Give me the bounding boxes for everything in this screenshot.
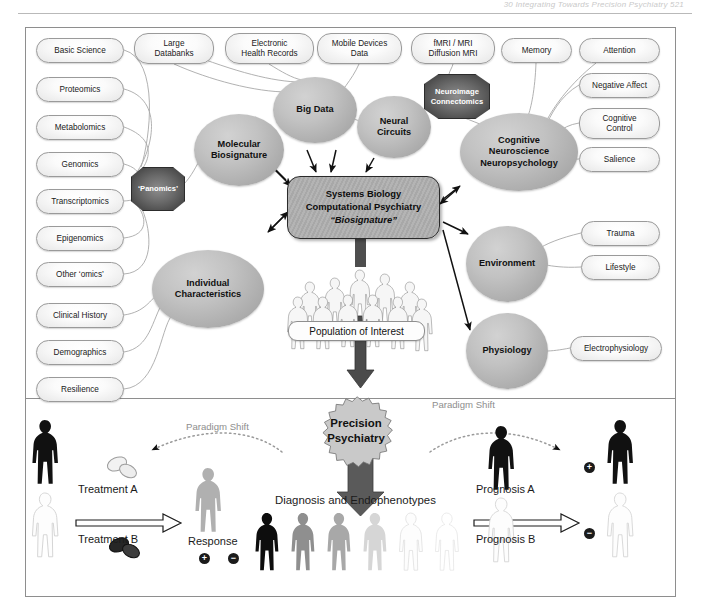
core-line-1: Systems Biology — [326, 188, 402, 200]
hub-node-big-data[interactable]: Big Data — [273, 77, 357, 143]
treatment-a-label: Treatment A — [78, 483, 138, 495]
leaf-node-mobile-devices[interactable]: Mobile DevicesData — [317, 33, 402, 64]
node-text-line: Resilience — [61, 385, 99, 395]
node-text-line: Circuits — [377, 127, 411, 138]
node-label: Mobile DevicesData — [332, 39, 388, 58]
patient-silhouette-ghost-left — [32, 493, 58, 557]
dark-node-neuroimage[interactable]: NeuroimageConnectomics — [424, 74, 490, 119]
node-text-line: Metabolomics — [55, 123, 106, 133]
paradigm-shift-right-label: Paradigm Shift — [432, 399, 495, 410]
node-text-line: Molecular — [211, 139, 267, 150]
node-label: fMRI / MRIDiffusion MRI — [429, 39, 478, 58]
node-label: Proteomics — [60, 85, 101, 95]
node-text-line: Mobile Devices — [332, 39, 388, 49]
core-biosignature-box[interactable]: Systems Biology Computational Psychiatry… — [287, 176, 440, 239]
leaf-node-ehr[interactable]: ElectronicHealth Records — [225, 33, 314, 64]
node-text-line: Environment — [479, 258, 535, 269]
prognosis-input-ghost — [488, 498, 514, 562]
node-label: MolecularBiosignature — [211, 139, 267, 161]
node-label: Attention — [603, 46, 635, 56]
leaf-node-cognitive-control[interactable]: CognitiveControl — [579, 108, 660, 139]
node-text-line: Other ‘omics’ — [56, 270, 104, 280]
leaf-node-genomics[interactable]: Genomics — [36, 152, 124, 177]
node-label: Environment — [479, 258, 535, 269]
node-label: Demographics — [54, 348, 107, 358]
leaf-node-attention[interactable]: Attention — [579, 38, 660, 63]
node-text-line: fMRI / MRI — [429, 39, 478, 49]
leaf-node-resilience[interactable]: Resilience — [36, 377, 124, 402]
leaf-node-epigenomics[interactable]: Epigenomics — [36, 226, 124, 251]
node-label: Negative Affect — [592, 81, 647, 91]
node-label: Transcriptomics — [51, 197, 108, 207]
diagnosis-silhouette-row — [255, 513, 458, 570]
node-text-line: Large — [154, 39, 193, 49]
paradigm-shift-left-label: Paradigm Shift — [186, 421, 249, 432]
leaf-node-trauma[interactable]: Trauma — [581, 221, 660, 246]
leaf-node-proteomics[interactable]: Proteomics — [36, 77, 124, 102]
leaf-node-metabolomics[interactable]: Metabolomics — [36, 115, 124, 140]
node-text-line: Memory — [522, 46, 552, 56]
node-text-line: Big Data — [296, 104, 333, 115]
leaf-node-demographics[interactable]: Demographics — [36, 340, 124, 365]
leaf-node-salience[interactable]: Salience — [579, 147, 660, 172]
node-text-line: ‘Panomics’ — [138, 184, 178, 193]
leaf-node-other-omics[interactable]: Other ‘omics’ — [36, 262, 124, 287]
response-plus-badge: + — [199, 553, 210, 564]
node-text-line: Negative Affect — [592, 81, 647, 91]
prognosis-minus-badge: − — [584, 528, 595, 539]
dark-node-panomics[interactable]: ‘Panomics’ — [131, 167, 185, 211]
node-text-line: Neuropsychology — [480, 158, 558, 169]
hub-node-individual[interactable]: IndividualCharacteristics — [152, 250, 264, 328]
core-line-2: Computational Psychiatry — [306, 201, 422, 213]
precision-line-2: Psychiatry — [327, 431, 385, 445]
precision-line-1: Precision — [330, 416, 381, 430]
node-label: Clinical History — [53, 311, 107, 321]
node-label: Resilience — [61, 385, 99, 395]
hub-node-cognitive[interactable]: CognitiveNeuroscienceNeuropsychology — [460, 113, 578, 191]
node-text-line: Demographics — [54, 348, 107, 358]
node-text-line: Control — [602, 124, 636, 134]
core-line-3: “Biosignature” — [330, 213, 397, 227]
node-label: ElectronicHealth Records — [241, 39, 297, 58]
hub-node-molecular[interactable]: MolecularBiosignature — [194, 114, 284, 186]
hub-node-neural-circuits[interactable]: NeuralCircuits — [357, 96, 431, 158]
core-stem — [355, 237, 366, 267]
leaf-node-negative-affect[interactable]: Negative Affect — [579, 73, 660, 98]
leaf-node-memory[interactable]: Memory — [501, 38, 572, 63]
node-label: NeuralCircuits — [377, 116, 411, 138]
node-text-line: Cognitive — [602, 114, 636, 124]
precision-psychiatry-node[interactable]: Precision Psychiatry — [286, 389, 426, 472]
leaf-node-clinical-history[interactable]: Clinical History — [36, 303, 124, 328]
node-label: Physiology — [482, 345, 531, 356]
prognosis-output-dark — [607, 420, 633, 484]
node-label: Metabolomics — [55, 123, 106, 133]
node-text-line: Physiology — [482, 345, 531, 356]
treatment-arrow — [76, 514, 181, 532]
leaf-node-electrophysiology[interactable]: Electrophysiology — [570, 336, 662, 361]
node-text-line: Neuroscience — [480, 146, 558, 157]
leaf-node-lifestyle[interactable]: Lifestyle — [581, 255, 660, 280]
leaf-node-fmri-mri[interactable]: fMRI / MRIDiffusion MRI — [411, 33, 495, 64]
node-label: LargeDatabanks — [154, 39, 193, 58]
node-label: Other ‘omics’ — [56, 270, 104, 280]
patient-silhouette-dark-left — [32, 420, 58, 484]
node-text-line: Data — [332, 49, 388, 59]
prognosis-plus-badge: + — [584, 462, 595, 473]
prognosis-input-dark — [488, 426, 514, 490]
leaf-node-basic-science[interactable]: Basic Science — [36, 38, 124, 63]
node-text-line: Proteomics — [60, 85, 101, 95]
node-text-line: Diffusion MRI — [429, 49, 478, 59]
population-of-interest-label: Population of Interest — [288, 321, 425, 341]
prognosis-b-label: Prognosis B — [476, 533, 535, 545]
node-text-line: Attention — [603, 46, 635, 56]
node-text-line: Clinical History — [53, 311, 107, 321]
diagnosis-label: Diagnosis and Endophenotypes — [275, 494, 436, 506]
leaf-node-large-databanks[interactable]: LargeDatabanks — [134, 33, 214, 64]
hub-node-environment[interactable]: Environment — [466, 226, 548, 302]
leaf-node-transcriptomics[interactable]: Transcriptomics — [36, 189, 124, 214]
prognosis-output-ghost — [607, 493, 633, 557]
node-text-line: Electronic — [241, 39, 297, 49]
hub-node-physiology[interactable]: Physiology — [466, 313, 548, 389]
node-label: Memory — [522, 46, 552, 56]
response-silhouette — [195, 468, 221, 532]
